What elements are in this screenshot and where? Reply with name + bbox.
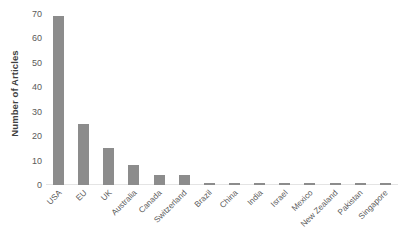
y-axis-tick-label: 10: [20, 156, 42, 165]
bar-slot: [71, 14, 96, 185]
bar-slot: [373, 14, 398, 185]
y-axis-tick-label: 30: [20, 107, 42, 116]
y-axis-tick-label: 70: [20, 10, 42, 19]
y-axis-tick-label: 40: [20, 83, 42, 92]
bar-slot: [297, 14, 322, 185]
bar[interactable]: [103, 148, 114, 185]
x-label-slot: Brazil: [197, 187, 222, 251]
x-label-slot: Australia: [121, 187, 146, 251]
bar-slot: [323, 14, 348, 185]
x-label-slot: UK: [96, 187, 121, 251]
x-label-slot: Switzerland: [172, 187, 197, 251]
x-label-slot: EU: [71, 187, 96, 251]
bar-slot: [272, 14, 297, 185]
bar-slot: [96, 14, 121, 185]
bar-slot: [147, 14, 172, 185]
y-axis-title-text: Number of Articles: [9, 50, 20, 136]
plot-area: [46, 14, 398, 185]
bar-slot: [172, 14, 197, 185]
bars-container: [46, 14, 398, 185]
y-axis-tick-label: 20: [20, 132, 42, 141]
x-label-slot: China: [222, 187, 247, 251]
x-label-slot: USA: [46, 187, 71, 251]
bar-slot: [197, 14, 222, 185]
x-label-slot: New Zealand: [323, 187, 348, 251]
x-label-slot: Israel: [272, 187, 297, 251]
bar-slot: [222, 14, 247, 185]
y-axis-tick-label: 0: [20, 181, 42, 190]
y-axis-tick-label: 50: [20, 58, 42, 67]
y-axis-tick-labels: 010203040506070: [20, 0, 42, 190]
bar-chart: Number of Articles 010203040506070 USAEU…: [0, 0, 403, 251]
x-axis-tick-labels: USAEUUKAustraliaCanadaSwitzerlandBrazilC…: [46, 187, 398, 251]
bar[interactable]: [128, 165, 139, 185]
x-label-slot: India: [247, 187, 272, 251]
bar-slot: [121, 14, 146, 185]
bar-slot: [247, 14, 272, 185]
x-label-slot: Singapore: [373, 187, 398, 251]
bar[interactable]: [78, 124, 89, 185]
bar-slot: [46, 14, 71, 185]
bar[interactable]: [53, 16, 64, 185]
y-axis-tick-label: 60: [20, 34, 42, 43]
